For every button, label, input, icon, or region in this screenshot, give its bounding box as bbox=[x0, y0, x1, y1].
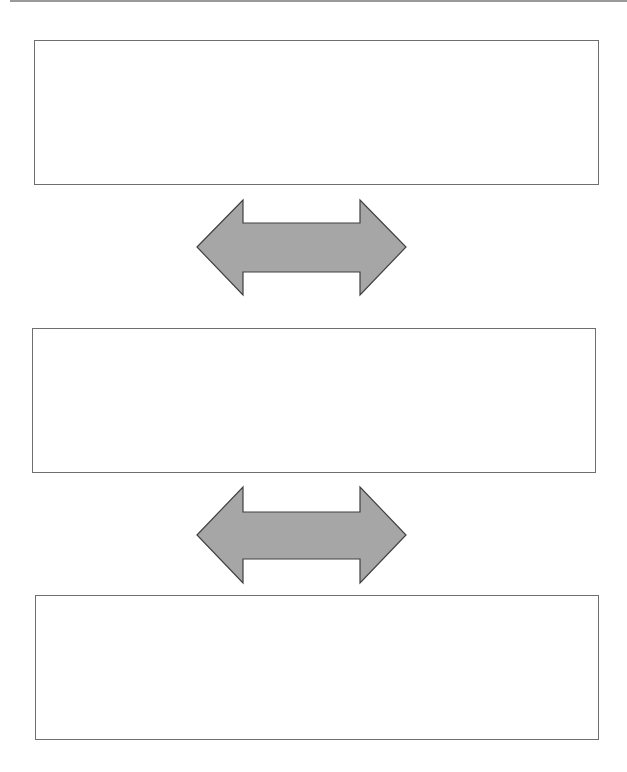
top-rule-divider bbox=[10, 0, 627, 2]
double-arrow-icon-1 bbox=[197, 200, 406, 295]
double-arrow-icon-2 bbox=[197, 487, 406, 583]
diagram-box-2 bbox=[32, 328, 596, 473]
diagram-box-3 bbox=[35, 595, 599, 740]
diagram-box-1 bbox=[34, 40, 599, 185]
